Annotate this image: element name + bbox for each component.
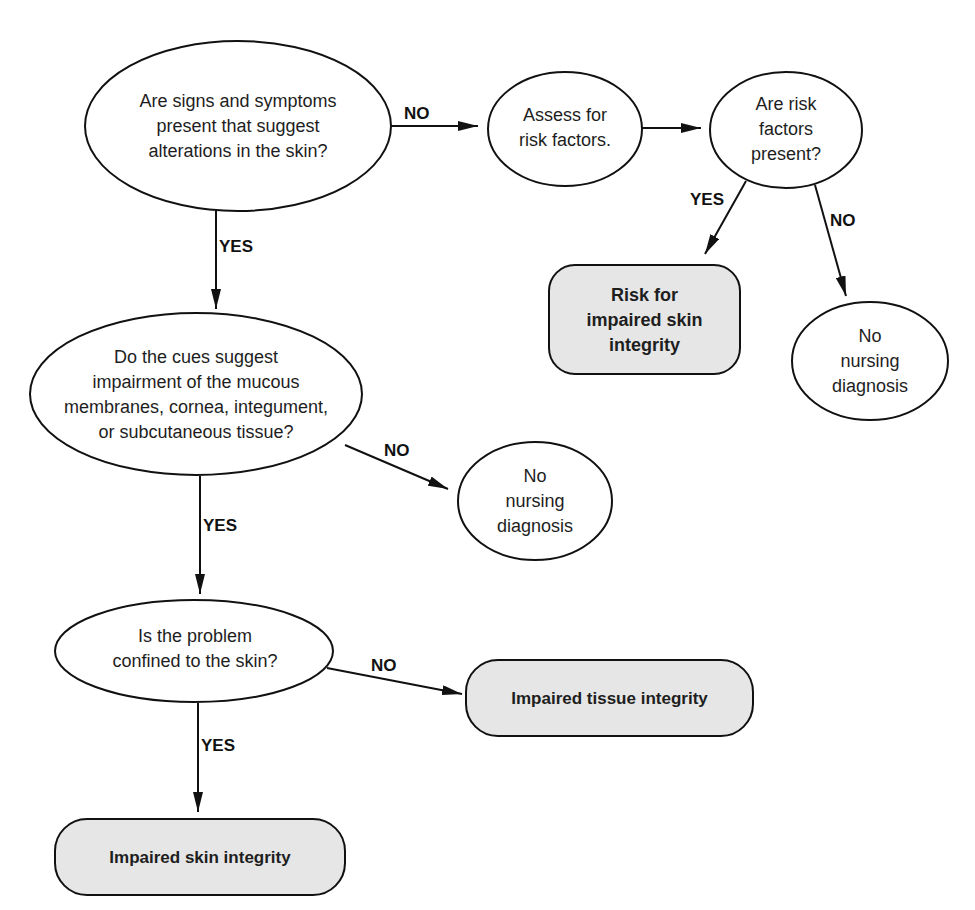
risk-impaired-skin-text: Risk for impaired skin integrity — [549, 272, 740, 368]
edge-q-risk-to-no-dx-1 — [815, 185, 846, 296]
edge-label-no-cues: NO — [384, 441, 410, 461]
impaired-skin-text: Impaired skin integrity — [55, 819, 345, 895]
impaired-tissue-text: Impaired tissue integrity — [466, 660, 753, 736]
no-dx-2-text: No nursing diagnosis — [465, 456, 605, 546]
edge-label-yes-cues: YES — [203, 516, 237, 536]
edge-label-no-1: NO — [404, 104, 430, 124]
edge-label-no-risk: NO — [830, 211, 856, 231]
edge-label-yes-risk: YES — [690, 190, 724, 210]
q-confined-text: Is the problem confined to the skin? — [70, 618, 320, 680]
q-cues-text: Do the cues suggest impairment of the mu… — [40, 340, 352, 450]
edge-label-yes-1: YES — [219, 237, 253, 257]
edge-label-no-confined: NO — [371, 656, 397, 676]
assess-risk-text: Assess for risk factors. — [495, 90, 635, 166]
no-dx-1-text: No nursing diagnosis — [800, 316, 940, 406]
q-signs-text: Are signs and symptoms present that sugg… — [98, 66, 378, 186]
q-risk-present-text: Are risk factors present? — [716, 84, 856, 174]
edge-label-yes-confined: YES — [201, 736, 235, 756]
